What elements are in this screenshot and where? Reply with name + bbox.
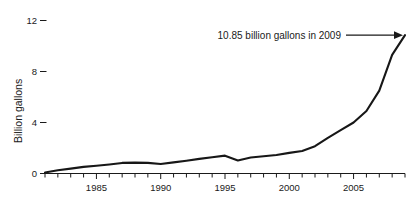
data-series-line (45, 35, 405, 172)
x-axis-tick-labels: 19851990199520002005 (86, 182, 364, 193)
line-chart: Billion gallons 04812 198519901995200020… (0, 0, 419, 205)
x-axis-tick-label: 2000 (279, 182, 300, 193)
x-axis-tick-label: 2005 (343, 182, 364, 193)
y-axis-title: Billion gallons (12, 79, 24, 143)
y-axis-tick-labels: 04812 (26, 15, 37, 179)
y-axis-title-text: Billion gallons (12, 79, 24, 143)
x-axis-tick-marks (45, 174, 405, 180)
annotation-callout: 10.85 billion gallons in 2009 (218, 30, 403, 41)
annotation-text: 10.85 billion gallons in 2009 (218, 30, 342, 41)
x-axis-tick-label: 1995 (214, 182, 235, 193)
y-axis-tick-label: 0 (32, 168, 37, 179)
arrow-right-icon (394, 31, 403, 39)
y-axis-tick-label: 12 (26, 15, 37, 26)
x-axis-tick-label: 1985 (86, 182, 107, 193)
x-axis-tick-label: 1990 (150, 182, 171, 193)
chart-container: Billion gallons 04812 198519901995200020… (0, 0, 419, 205)
y-axis-tick-label: 8 (32, 66, 37, 77)
y-axis-tick-marks (40, 21, 47, 174)
y-axis-tick-label: 4 (32, 117, 37, 128)
